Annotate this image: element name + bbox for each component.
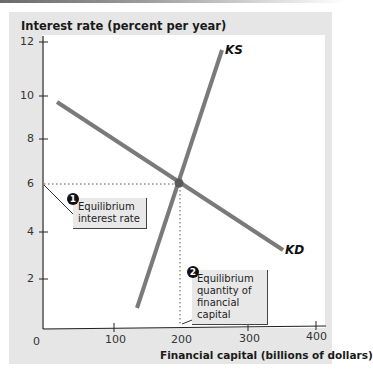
x-tick-200: 200 [171,333,192,346]
y-tick-4: 4 [27,225,34,238]
y-tick-8: 8 [27,132,34,145]
x-tick-100: 100 [105,333,126,346]
y-axis-title: Interest rate (percent per year) [21,19,226,33]
callout-equilibrium-quantity: Equilibrium quantity of financial capita… [192,270,268,325]
x-axis [43,326,326,329]
y-tick-6: 6 [27,177,34,190]
callout-equilibrium-rate: Equilibrium interest rate [73,198,147,229]
callout2-line1: Equilibrium [197,273,263,285]
y-tick-12: 12 [20,35,34,48]
callout2-number-badge: 2 [187,266,199,278]
callout1-number-badge: 1 [67,193,79,205]
callout2-line3: financial capital [197,297,263,321]
y-tick-10: 10 [20,89,34,102]
x-tick-300: 300 [239,332,260,345]
x-axis-title: Financial capital (billions of dollars) [160,349,373,361]
x-tick-400: 400 [306,330,327,343]
ks-label: KS [225,43,243,57]
y-tick-2: 2 [27,272,34,285]
kd-label: KD [285,243,304,257]
x-tick-0: 0 [33,335,40,348]
equilibrium-point [175,179,184,188]
callout1-line1: Equilibrium [78,201,142,213]
callout2-line2: quantity of [197,285,263,297]
callout1-line2: interest rate [78,213,142,225]
